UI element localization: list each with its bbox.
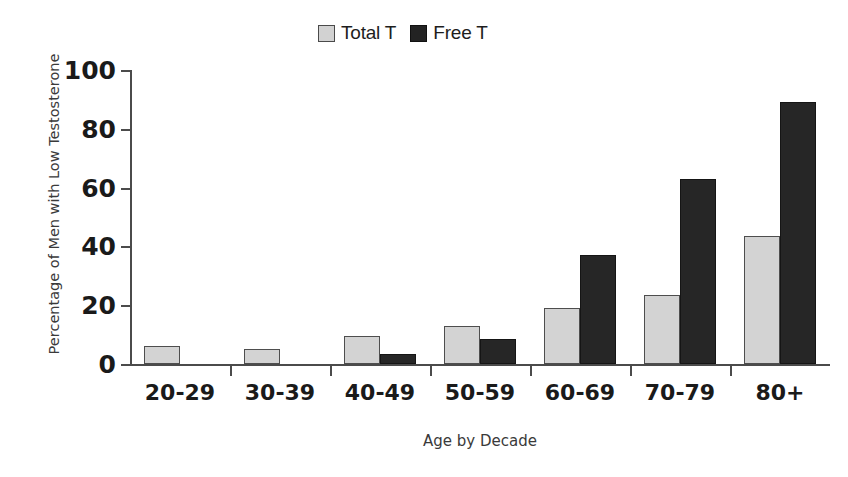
y-tick-mark <box>121 305 130 307</box>
y-tick-label: 60 <box>81 173 116 202</box>
category-label-40-49: 40-49 <box>345 380 415 405</box>
y-tick-label: 100 <box>64 56 116 85</box>
y-tick-mark <box>121 129 130 131</box>
bar-60-69-total-t <box>544 308 580 364</box>
bar-40-49-free-t <box>380 354 416 364</box>
y-tick-mark <box>121 188 130 190</box>
legend-entry-total-t: Total T <box>318 22 396 44</box>
x-tick-mark <box>530 366 532 376</box>
y-axis-title: Percentage of Men with Low Testosterone <box>46 24 62 384</box>
category-label-80plus: 80+ <box>755 380 804 405</box>
bar-50-59-total-t <box>444 326 480 364</box>
x-tick-mark <box>230 366 232 376</box>
category-label-50-59: 50-59 <box>445 380 515 405</box>
y-tick-mark <box>121 246 130 248</box>
bar-70-79-free-t <box>680 179 716 364</box>
legend-swatch-total-t-icon <box>318 25 335 42</box>
category-label-60-69: 60-69 <box>545 380 615 405</box>
x-axis-title: Age by Decade <box>130 432 830 450</box>
x-axis-line <box>130 364 830 366</box>
x-tick-mark <box>330 366 332 376</box>
x-tick-mark <box>630 366 632 376</box>
legend-swatch-free-t-icon <box>410 25 427 42</box>
y-tick-mark <box>121 364 130 366</box>
legend-entry-free-t: Free T <box>410 22 487 44</box>
category-label-30-39: 30-39 <box>245 380 315 405</box>
y-tick-label: 20 <box>81 291 116 320</box>
y-axis-line <box>130 70 132 366</box>
x-tick-mark <box>430 366 432 376</box>
chart-figure: Total T Free T Percentage of Men with Lo… <box>0 0 848 477</box>
x-tick-mark <box>730 366 732 376</box>
bar-30-39-total-t <box>244 349 280 364</box>
bar-60-69-free-t <box>580 255 616 364</box>
legend-label-free-t: Free T <box>433 22 487 44</box>
y-tick-mark <box>121 70 130 72</box>
legend-label-total-t: Total T <box>341 22 396 44</box>
y-tick-label: 0 <box>99 350 116 379</box>
bar-80plus-free-t <box>780 102 816 364</box>
bar-70-79-total-t <box>644 295 680 364</box>
y-tick-label: 80 <box>81 114 116 143</box>
category-label-70-79: 70-79 <box>645 380 715 405</box>
bar-40-49-total-t <box>344 336 380 364</box>
chart-legend: Total T Free T <box>318 22 488 44</box>
category-label-20-29: 20-29 <box>145 380 215 405</box>
bar-20-29-total-t <box>144 346 180 364</box>
plot-area: 020406080100 20-2930-3940-4950-5960-6970… <box>130 70 830 364</box>
y-tick-label: 40 <box>81 232 116 261</box>
bar-50-59-free-t <box>480 339 516 364</box>
bar-80plus-total-t <box>744 236 780 364</box>
